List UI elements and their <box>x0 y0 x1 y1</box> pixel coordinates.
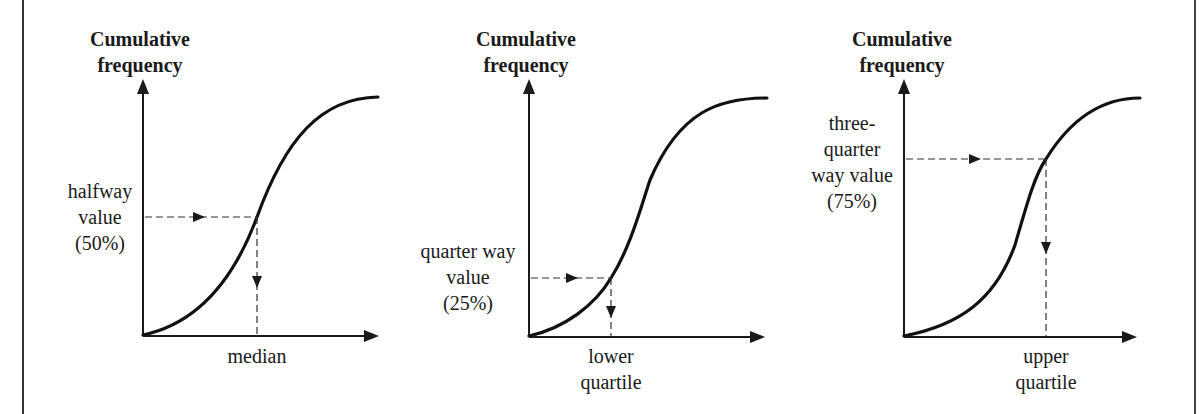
ogive-curve <box>904 98 1140 336</box>
panel-median: Cumulative frequency halfway value (50%)… <box>68 28 379 367</box>
y-axis-label-line2: frequency <box>97 54 182 77</box>
y-annotation-line2: quarter <box>824 138 881 161</box>
right-arrow-icon <box>193 212 205 222</box>
ogive-curve <box>143 97 378 335</box>
down-arrow-icon <box>1041 242 1051 254</box>
y-axis-label-line1: Cumulative <box>476 28 576 50</box>
y-annotation-line2: value <box>78 206 121 228</box>
x-axis-arrow-icon <box>1122 331 1137 343</box>
x-annotation-line1: median <box>228 345 287 367</box>
y-annotation-line3: (50%) <box>75 232 125 255</box>
y-axis-label-line2: frequency <box>859 54 944 77</box>
x-axis-arrow-icon <box>750 331 765 343</box>
x-annotation-line1: lower <box>588 345 634 367</box>
y-annotation-line1: quarter way <box>421 240 516 263</box>
y-axis-label-line2: frequency <box>483 54 568 77</box>
cumulative-frequency-diagram: Cumulative frequency halfway value (50%)… <box>0 0 1200 414</box>
right-arrow-icon <box>566 273 578 283</box>
y-annotation-line3: (25%) <box>443 292 493 315</box>
right-arrow-icon <box>969 154 981 164</box>
x-axis-arrow-icon <box>364 330 379 342</box>
y-annotation-line2: value <box>446 266 489 288</box>
y-axis-label-line1: Cumulative <box>852 28 952 50</box>
y-axis-arrow-icon <box>137 79 149 94</box>
panel-lower-quartile: Cumulative frequency quarter way value (… <box>421 28 767 394</box>
y-annotation-line1: halfway <box>68 180 132 203</box>
down-arrow-icon <box>606 306 616 318</box>
x-annotation-line2: quartile <box>1015 371 1076 394</box>
y-annotation-line1: three- <box>829 112 876 134</box>
y-annotation-line3: way value <box>811 164 893 187</box>
ogive-curve <box>529 98 767 336</box>
x-annotation-line2: quartile <box>580 371 641 394</box>
y-axis-arrow-icon <box>898 79 910 94</box>
down-arrow-icon <box>252 276 262 288</box>
x-annotation-line1: upper <box>1023 345 1069 368</box>
y-axis-label-line1: Cumulative <box>90 28 190 50</box>
panel-upper-quartile: Cumulative frequency three- quarter way … <box>811 28 1140 394</box>
y-annotation-line4: (75%) <box>827 190 877 213</box>
y-axis-arrow-icon <box>523 79 535 94</box>
